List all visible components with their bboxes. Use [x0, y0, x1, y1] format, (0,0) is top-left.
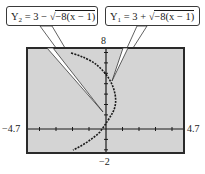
y1-prefix: = 3 +: [121, 11, 149, 22]
y2-callout: Y2 = 3 − √−8(x − 1): [6, 6, 98, 26]
ymax-label: 8: [101, 36, 106, 46]
y2-prefix: = 3 −: [22, 11, 50, 22]
y2-name: Y: [11, 11, 19, 22]
y1-radicand: −8(x − 1): [154, 10, 194, 22]
y2-radicand: −8(x − 1): [55, 10, 95, 22]
y1-name: Y: [110, 11, 118, 22]
xmax-label: 4.7: [187, 124, 200, 134]
xmin-label: −4.7: [2, 124, 20, 134]
y1-callout: Y1 = 3 + √−8(x − 1): [105, 6, 200, 26]
ymin-label: −2: [99, 157, 110, 167]
